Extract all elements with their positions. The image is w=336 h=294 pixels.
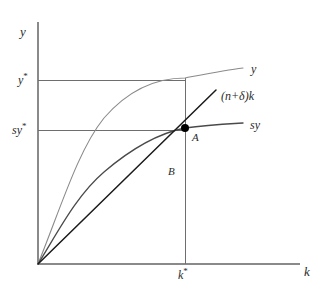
curve-label-y: y bbox=[251, 63, 256, 75]
curve-label-break-even: (n+δ)k bbox=[221, 90, 254, 102]
steady-state-point-marker bbox=[181, 124, 189, 132]
y-axis-label: y bbox=[20, 25, 26, 38]
axes-group bbox=[38, 22, 300, 264]
plot-canvas bbox=[0, 0, 336, 294]
x-tick-label-k-star: k* bbox=[178, 267, 188, 281]
solow-model-figure: y k y* sy* k* y sy (n+δ)k A B bbox=[0, 0, 336, 294]
consumption-gap-label: B bbox=[168, 166, 175, 177]
y-tick-star: * bbox=[23, 71, 28, 81]
curve-break-even-investment bbox=[38, 90, 216, 264]
sy-tick-star: * bbox=[22, 121, 27, 131]
y-tick-label-sy-star: sy* bbox=[12, 122, 27, 136]
x-axis-label: k bbox=[304, 265, 310, 278]
steady-state-point-label: A bbox=[192, 132, 199, 143]
curve-saving-per-worker bbox=[38, 123, 243, 264]
curves-group bbox=[38, 68, 243, 264]
guide-lines-group bbox=[38, 78, 185, 264]
k-tick-star: * bbox=[183, 266, 188, 276]
curve-label-sy: sy bbox=[250, 119, 260, 131]
sy-tick-text: sy bbox=[12, 123, 22, 137]
y-tick-label-y-star: y* bbox=[18, 72, 28, 86]
